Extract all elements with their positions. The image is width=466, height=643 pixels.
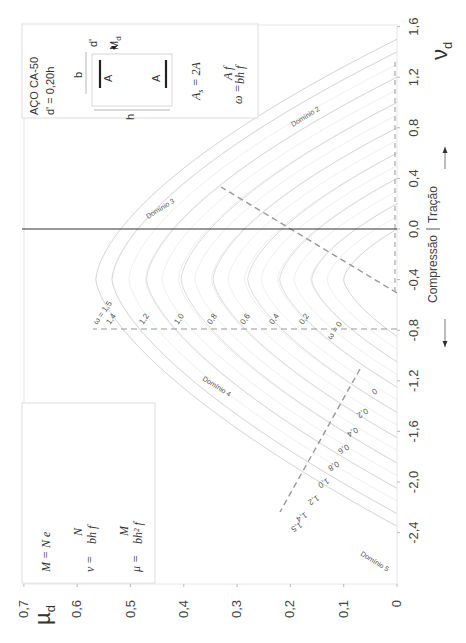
nu-tick: 0,0	[406, 220, 421, 238]
svg-text:-2,4: -2,4	[406, 521, 421, 543]
nu-axis-title: νd	[427, 42, 455, 60]
svg-text:b: b	[72, 72, 84, 78]
nu-axis-ticks: 2,01,61,20,80,40,0-0,4-0,8-1,2-1,6-2,0-2…	[397, 0, 421, 544]
svg-text:1,2: 1,2	[306, 493, 321, 507]
mu-axis-ticks: 0,70,60,50,40,30,20,10	[16, 584, 404, 618]
nu-tick: 1,2	[406, 68, 421, 86]
nu-tick: -0,4	[406, 268, 421, 290]
nu-tick: -0,8	[406, 319, 421, 341]
nu-tick: -1,2	[406, 370, 421, 392]
mu-tick: 0,7	[16, 600, 31, 618]
svg-text:µd: µd	[30, 605, 58, 625]
domain-5-label: Domínio 5	[359, 550, 390, 573]
svg-text:0,7: 0,7	[16, 600, 31, 618]
svg-text:A: A	[102, 74, 114, 82]
tension-arrow-icon	[443, 147, 448, 153]
formula-box: M = N e ν = N bh f μ = M bh² f	[22, 403, 155, 583]
nu-tick: -1,6	[406, 420, 421, 442]
omega-label: ω = 0	[325, 319, 344, 341]
svg-text:0,8: 0,8	[406, 119, 421, 137]
mu-tick: 0,3	[229, 600, 244, 618]
svg-text:0,3: 0,3	[229, 600, 244, 618]
side-labels: Compressão Tração	[426, 147, 448, 347]
cover-ratio: d' = 0,20h	[44, 67, 56, 115]
svg-text:-0,4: -0,4	[406, 268, 421, 290]
svg-text:d': d'	[87, 39, 99, 47]
omega-label: 1,2	[306, 493, 321, 507]
tension-label: Tração	[426, 186, 440, 223]
svg-text:-0,8: -0,8	[406, 319, 421, 341]
svg-text:1,0: 1,0	[316, 476, 331, 490]
svg-text:M: M	[117, 525, 131, 537]
domain-3-label: Domínio 3	[145, 197, 176, 220]
omega-labels-top: ω = 1,51,41,21,00,80,60,40,2ω = 0	[91, 299, 344, 341]
svg-text:N: N	[71, 527, 85, 537]
svg-text:0,6: 0,6	[69, 600, 84, 618]
omega-labels-bottom: 00,20,40,60,81,01,21,41,5	[289, 386, 379, 534]
section-info-box: AÇO CA-50 d' = 0,20h A A b h d' Md As = …	[22, 24, 258, 120]
formula-nu: ν =	[83, 556, 97, 572]
svg-text:0,8: 0,8	[205, 311, 219, 326]
formula-mu: μ =	[129, 555, 143, 573]
svg-text:As = 2A: As = 2A	[189, 61, 205, 101]
omega-label: 0,4	[267, 311, 281, 326]
omega-label: 1,2	[137, 311, 151, 326]
interaction-diagram: 0,70,60,50,40,30,20,10 2,01,61,20,80,40,…	[0, 0, 466, 643]
svg-text:1,6: 1,6	[406, 18, 421, 36]
omega-label: 1,0	[316, 476, 331, 490]
nu-tick: -2,0	[406, 471, 421, 493]
omega-label: 1,0	[172, 311, 186, 326]
boundary-domain-2-3	[221, 187, 397, 293]
mu-tick: 0,2	[282, 600, 297, 618]
nu-tick: -2,4	[406, 521, 421, 543]
svg-text:-2,0: -2,0	[406, 471, 421, 493]
nu-tick: 1,6	[406, 18, 421, 36]
svg-text:bh² f: bh² f	[131, 520, 145, 544]
omega-label: 0,8	[205, 311, 219, 326]
svg-text:bh f: bh f	[233, 64, 247, 84]
svg-text:h: h	[124, 114, 136, 120]
compression-arrow-icon	[443, 341, 448, 347]
nu-tick: 0,8	[406, 119, 421, 137]
nu-tick: 0,4	[406, 169, 421, 187]
svg-text:ω = 0: ω = 0	[325, 319, 344, 341]
mu-tick: 0,4	[176, 600, 191, 618]
svg-text:bh f: bh f	[85, 524, 99, 544]
svg-text:0,5: 0,5	[123, 600, 138, 618]
svg-text:0,4: 0,4	[267, 311, 281, 326]
svg-text:ω =: ω =	[231, 84, 245, 104]
svg-text:-1,2: -1,2	[406, 370, 421, 392]
svg-text:0,0: 0,0	[406, 220, 421, 238]
mu-tick: 0,6	[69, 600, 84, 618]
svg-text:0,2: 0,2	[355, 406, 370, 420]
svg-text:1,0: 1,0	[172, 311, 186, 326]
svg-text:1,2: 1,2	[137, 311, 151, 326]
svg-text:νd: νd	[427, 42, 455, 60]
mu-axis-title: µd	[30, 605, 58, 625]
svg-text:0,4: 0,4	[406, 169, 421, 187]
omega-label: 0,2	[355, 406, 370, 420]
svg-text:0,1: 0,1	[336, 600, 351, 618]
domain-2-label: Domínio 2	[290, 105, 321, 128]
svg-text:1,2: 1,2	[406, 68, 421, 86]
mu-tick: 0	[389, 600, 404, 607]
svg-text:-1,6: -1,6	[406, 420, 421, 442]
svg-text:0,2: 0,2	[282, 600, 297, 618]
svg-text:A: A	[150, 74, 162, 82]
formula-md: M = N e	[39, 531, 53, 573]
mu-tick: 0,1	[336, 600, 351, 618]
svg-text:0,4: 0,4	[176, 600, 191, 618]
steel-grade: AÇO CA-50	[28, 57, 40, 115]
compression-label: Compressão	[426, 235, 440, 303]
svg-text:0: 0	[389, 600, 404, 607]
mu-tick: 0,5	[123, 600, 138, 618]
